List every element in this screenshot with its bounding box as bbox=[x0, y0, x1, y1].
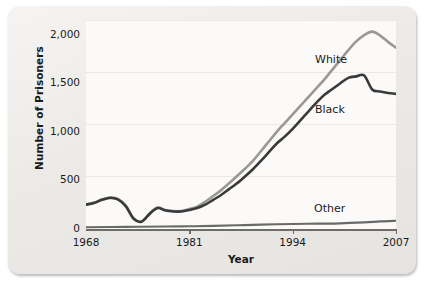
series-annotations: WhiteBlackOther bbox=[8, 6, 416, 274]
series-label-black: Black bbox=[315, 103, 345, 116]
chart-figure: Number of Prisoners 05001,0001,5002,000 … bbox=[8, 6, 416, 274]
series-label-other: Other bbox=[314, 202, 345, 215]
series-label-white: White bbox=[315, 53, 347, 66]
